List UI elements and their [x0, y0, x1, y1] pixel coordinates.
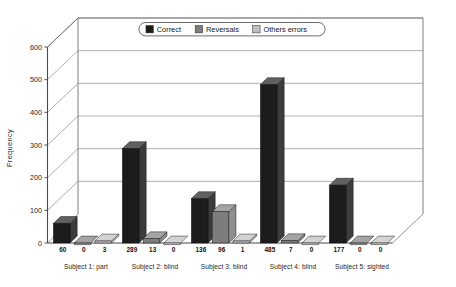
- category-label: Subject 3: blind: [201, 263, 248, 271]
- legend-label: Others errors: [263, 25, 307, 34]
- category-label-row: Subject 1: partSubject 2: blindSubject 3…: [64, 263, 389, 271]
- chart-legend: CorrectReversalsOthers errors: [139, 23, 325, 36]
- data-value-label: 60: [59, 246, 67, 253]
- data-value-label: 0: [358, 246, 362, 253]
- legend-label: Reversals: [206, 25, 239, 34]
- bar-1-correct: [53, 217, 77, 244]
- legend-label: Correct: [157, 25, 181, 34]
- legend-swatch: [146, 26, 153, 33]
- data-value-label: 0: [310, 246, 314, 253]
- category-label: Subject 2: blind: [132, 263, 179, 271]
- category-label: Subject 4: blind: [270, 263, 317, 271]
- legend-swatch: [195, 26, 202, 33]
- y-axis: 0100200300400500600: [30, 43, 48, 248]
- y-tick-label: 0: [38, 239, 42, 248]
- data-value-label: 13: [149, 246, 157, 253]
- legend-item-correct[interactable]: Correct: [146, 25, 181, 34]
- data-value-label: 0: [172, 246, 176, 253]
- bar-chart-svg: 0100200300400500600 Frequency 6003289130…: [0, 0, 456, 287]
- bar-4-correct: [260, 78, 284, 243]
- data-value-label: 485: [265, 246, 276, 253]
- y-axis-title: Frequency: [5, 129, 14, 167]
- legend-swatch: [253, 26, 260, 33]
- chart-figure: 0100200300400500600 Frequency 6003289130…: [0, 0, 456, 287]
- y-tick-label: 300: [30, 141, 42, 150]
- data-value-label: 0: [82, 246, 86, 253]
- data-value-label: 1: [241, 246, 245, 253]
- category-label: Subject 1: part: [64, 263, 108, 271]
- bar-2-correct: [122, 142, 146, 243]
- legend-item-reversals[interactable]: Reversals: [195, 25, 239, 34]
- category-label: Subject 5: sighted: [335, 263, 389, 271]
- bar-3-reversals: [212, 205, 236, 243]
- y-tick-label: 600: [30, 43, 42, 52]
- data-value-label: 136: [196, 246, 207, 253]
- data-value-label: 0: [379, 246, 383, 253]
- y-tick-label: 500: [30, 75, 42, 84]
- data-value-label: 7: [289, 246, 293, 253]
- data-value-row: 60032891301369614857017700: [59, 246, 382, 253]
- data-value-label: 177: [334, 246, 345, 253]
- y-tick-label: 200: [30, 173, 42, 182]
- y-tick-label: 100: [30, 206, 42, 215]
- bar-3-correct: [191, 192, 215, 243]
- data-value-label: 3: [103, 246, 107, 253]
- bar-5-correct: [329, 178, 353, 243]
- data-value-label: 96: [218, 246, 226, 253]
- y-tick-label: 400: [30, 108, 42, 117]
- data-value-label: 289: [127, 246, 138, 253]
